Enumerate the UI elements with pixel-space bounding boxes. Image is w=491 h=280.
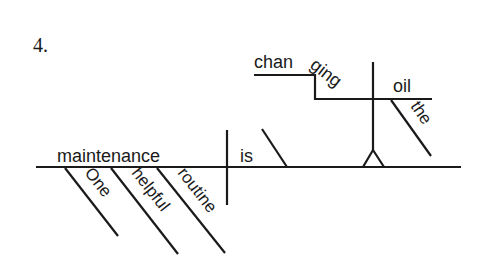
- object-word: oil: [393, 76, 411, 96]
- modifier-word-routine: routine: [174, 164, 221, 217]
- verb-word: is: [240, 146, 253, 166]
- gerund-word-part-2: ging: [307, 54, 346, 91]
- object-modifier-word: the: [407, 98, 436, 128]
- modifier-word-helpful: helpful: [128, 164, 174, 215]
- gerund-word-part-1: chan: [254, 52, 293, 72]
- complement-slant-line: [262, 129, 287, 167]
- item-number: 4.: [33, 34, 48, 56]
- sentence-diagram: 4. maintenance is One helpful routine ch…: [0, 0, 491, 280]
- pedestal-base: [363, 150, 384, 167]
- subject-word: maintenance: [57, 146, 160, 166]
